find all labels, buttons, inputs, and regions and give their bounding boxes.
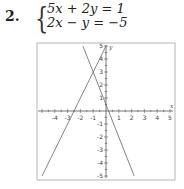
y-tick-label: -1 [97,120,103,127]
y-axis-label: y [108,43,113,51]
graph: -4-3-2-112345-5-4-3-2-112345xy [0,0,184,189]
x-tick-label: 5 [168,114,172,121]
x-tick-label: -2 [77,114,83,121]
y-tick-label: -4 [97,159,103,166]
y-tick-label: 3 [99,68,103,75]
x-tick-label: 1 [117,114,121,121]
x-tick-label: 3 [142,114,146,121]
y-tick-label: -3 [97,146,103,153]
x-axis-label: x [170,102,174,109]
y-tick-label: -2 [97,133,103,140]
x-tick-label: -4 [52,114,58,121]
x-tick-label: 4 [155,114,159,121]
y-tick-label: 2 [99,81,103,88]
x-tick-label: 2 [130,114,134,121]
y-tick-label: -5 [97,172,103,179]
y-tick-label: 5 [99,42,103,49]
x-tick-label: -1 [90,114,96,121]
